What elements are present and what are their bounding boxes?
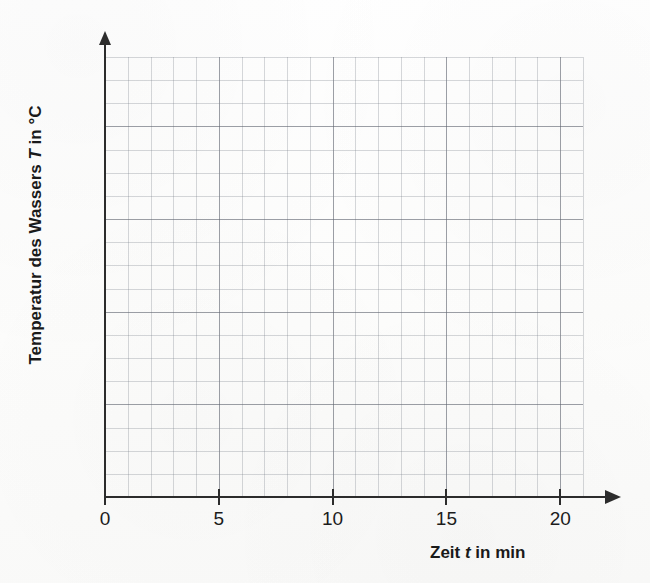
y-axis-label-suffix: in °C xyxy=(26,105,45,149)
x-axis-tick-label: 20 xyxy=(530,508,590,530)
minor-gridline-horizontal xyxy=(105,150,583,151)
minor-gridline-horizontal xyxy=(105,196,583,197)
minor-gridline-horizontal xyxy=(105,335,583,336)
x-axis-tick xyxy=(332,489,334,505)
y-axis-label-prefix: Temperatur des Wassers xyxy=(26,160,45,365)
minor-gridline-horizontal xyxy=(105,103,583,104)
x-axis-tick xyxy=(445,489,447,505)
major-gridline-horizontal xyxy=(105,312,583,313)
minor-gridline-horizontal xyxy=(105,242,583,243)
minor-gridline-horizontal xyxy=(105,358,583,359)
x-axis-arrow-icon xyxy=(605,490,621,504)
minor-gridline-horizontal xyxy=(105,265,583,266)
minor-gridline-horizontal xyxy=(105,289,583,290)
plot-grid-area xyxy=(105,57,583,497)
major-gridline-horizontal xyxy=(105,126,583,127)
minor-gridline-horizontal xyxy=(105,173,583,174)
horizontal-gridlines xyxy=(105,57,583,497)
y-axis-arrow-icon xyxy=(99,31,111,45)
minor-gridline-horizontal xyxy=(105,451,583,452)
x-axis-label-prefix: Zeit xyxy=(430,543,465,562)
x-axis-tick-label: 0 xyxy=(75,508,135,530)
major-gridline-horizontal xyxy=(105,219,583,220)
minor-gridline-horizontal xyxy=(105,80,583,81)
x-axis-tick xyxy=(104,489,106,505)
major-gridline-horizontal xyxy=(105,404,583,405)
minor-gridline-horizontal xyxy=(105,428,583,429)
x-axis-label: Zeit t in min xyxy=(430,543,525,563)
worksheet-figure: 05101520 Zeit t in min Temperatur des Wa… xyxy=(0,0,650,583)
y-axis-label-variable: T xyxy=(26,149,45,159)
x-axis-tick-label: 5 xyxy=(189,508,249,530)
x-axis-tick-label: 15 xyxy=(416,508,476,530)
x-axis-tick xyxy=(218,489,220,505)
y-axis-line xyxy=(104,40,106,498)
minor-gridline-horizontal xyxy=(105,381,583,382)
x-axis-label-suffix: in min xyxy=(471,543,526,562)
x-axis-tick xyxy=(559,489,561,505)
y-axis-label: Temperatur des Wassers T in °C xyxy=(26,65,46,405)
x-axis-line xyxy=(104,496,608,498)
minor-gridline-horizontal xyxy=(105,474,583,475)
x-axis-tick-label: 10 xyxy=(303,508,363,530)
minor-gridline-vertical xyxy=(583,57,584,497)
minor-gridline-horizontal xyxy=(105,57,583,58)
